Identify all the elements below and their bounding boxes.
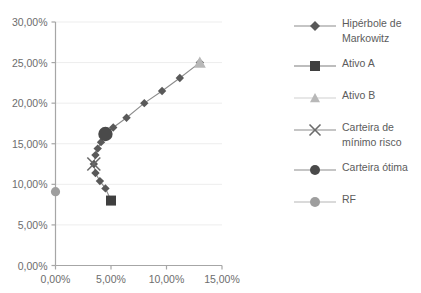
legend-item-label: Carteira de mínimo risco [338,120,402,150]
data-series-layer [51,57,206,206]
legend-item-label: Ativo A [338,56,375,71]
data-point-hiperbole-markowitz [101,184,109,192]
data-point-hiperbole-markowitz [158,87,166,95]
legend-key-marker [310,61,320,71]
x-axis-tick-label: 10,00% [149,273,185,285]
legend-marker-triangle-icon [292,89,338,107]
legend-marker-x-icon [292,121,338,139]
legend-item-label: Hipérbole de Markowitz [338,16,402,46]
legend-marker-square-icon [292,57,338,75]
y-axis-tick-label: 5,00% [18,219,48,231]
legend-key-marker [310,197,320,207]
x-axis-tick-label: 15,00% [204,273,240,285]
data-point-rf [51,187,60,196]
data-point-hiperbole-markowitz [91,151,99,159]
y-axis-tick-label: 25,00% [12,57,48,69]
legend-item[interactable]: Hipérbole de Markowitz [292,16,421,46]
x-axis-tick-label: 0,00% [41,273,71,285]
legend-item[interactable]: RF [292,192,421,214]
gridlines [56,22,223,225]
hyperbola-upper-branch-line [94,63,200,164]
legend-item-label: RF [338,192,356,207]
y-axis-tick-label: 0,00% [18,260,48,272]
legend-item[interactable]: Carteira de mínimo risco [292,120,421,150]
legend-item-label: Ativo B [338,88,375,103]
y-axis-tick-label: 10,00% [12,178,48,190]
chart-screenshot: 0,00%5,00%10,00%15,00%20,00%25,00%30,00%… [0,0,421,293]
x-axis-tick-label: 5,00% [96,273,126,285]
y-axis-tick-label: 20,00% [12,97,48,109]
data-point-hiperbole-markowitz [91,169,99,177]
axis-ticks [52,22,223,270]
data-point-carteira-otima [98,127,112,141]
legend-marker-circle-icon [292,161,338,179]
legend-key-marker [310,165,320,175]
axis-tick-labels: 0,00%5,00%10,00%15,00%20,00%25,00%30,00%… [12,16,240,285]
data-point-carteira-minimo-risco [87,158,100,171]
y-axis-tick-label: 15,00% [12,138,48,150]
legend-marker-diamond-icon [292,17,338,35]
legend-item[interactable]: Ativo A [292,56,421,78]
data-point-ativo-a [106,196,116,206]
y-axis-tick-label: 30,00% [12,16,48,28]
legend-marker-circle-icon [292,193,338,211]
legend-item-label: Carteira ótima [338,160,408,175]
legend-item[interactable]: Ativo B [292,88,421,110]
chart-legend: Hipérbole de MarkowitzAtivo AAtivo BCart… [292,16,421,224]
legend-key-marker [310,21,320,31]
legend-item[interactable]: Carteira ótima [292,160,421,182]
